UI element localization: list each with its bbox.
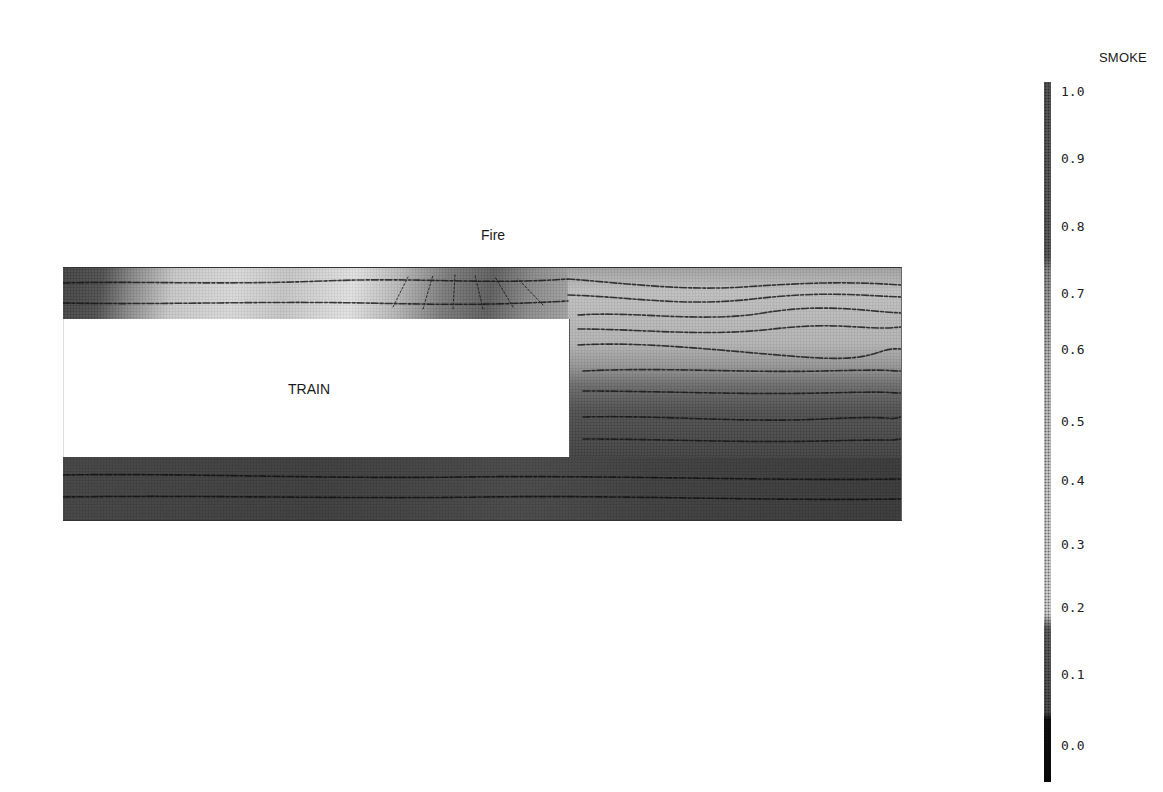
legend-tick: 0.7 <box>1061 286 1084 301</box>
fire-label: Fire <box>481 227 505 243</box>
legend-tick: 0.4 <box>1061 473 1084 488</box>
legend-tick: 0.1 <box>1061 667 1084 682</box>
smoke-colorbar <box>1044 82 1051 782</box>
legend-tick: 1.0 <box>1061 84 1084 99</box>
legend-tick: 0.2 <box>1061 600 1084 615</box>
train-label: TRAIN <box>288 381 330 397</box>
legend-title: SMOKE <box>1099 50 1147 65</box>
legend-tick: 0.5 <box>1061 414 1084 429</box>
legend-tick: 0.0 <box>1061 738 1084 753</box>
legend-tick: 0.9 <box>1061 151 1084 166</box>
downstream-region <box>568 267 902 458</box>
tunnel-domain <box>63 267 901 522</box>
legend-tick: 0.3 <box>1061 537 1084 552</box>
legend-tick: 0.8 <box>1061 219 1084 234</box>
upper-gap-over-train <box>63 267 568 320</box>
smoke-simulation-figure: Fire <box>0 0 1163 792</box>
legend-tick: 0.6 <box>1061 342 1084 357</box>
lower-gap-under-train <box>63 457 902 521</box>
